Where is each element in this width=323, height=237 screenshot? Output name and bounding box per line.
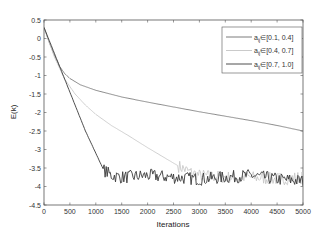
x-tick-label: 500 bbox=[64, 208, 76, 215]
y-tick-label: -4.5 bbox=[29, 202, 41, 209]
x-tick-label: 1500 bbox=[114, 208, 130, 215]
y-tick-label: -1 bbox=[35, 72, 41, 79]
legend: aij∈[0.1, 0.4]aij∈[0.4, 0.7]aij∈[0.7, 1.… bbox=[222, 27, 302, 73]
x-tick-label: 4000 bbox=[243, 208, 259, 215]
y-tick-label: 0.5 bbox=[31, 17, 41, 24]
x-tick-label: 4500 bbox=[269, 208, 285, 215]
y-tick-label: -3.5 bbox=[29, 165, 41, 172]
y-tick-label: -0.5 bbox=[29, 54, 41, 61]
x-tick-label: 5000 bbox=[295, 208, 311, 215]
x-tick-label: 2500 bbox=[166, 208, 182, 215]
x-tick-label: 3000 bbox=[192, 208, 208, 215]
x-tick-label: 0 bbox=[42, 208, 46, 215]
line-chart: 0500100015002000250030003500400045005000… bbox=[0, 0, 323, 237]
x-tick-label: 1000 bbox=[88, 208, 104, 215]
y-axis-label: E(k) bbox=[9, 104, 18, 119]
y-tick-label: -3 bbox=[35, 146, 41, 153]
x-tick-label: 3500 bbox=[218, 208, 234, 215]
y-tick-label: 0 bbox=[37, 35, 41, 42]
y-tick-label: -2 bbox=[35, 109, 41, 116]
x-axis-label: Iterations bbox=[157, 220, 190, 229]
y-tick-label: -1.5 bbox=[29, 91, 41, 98]
y-tick-label: -4 bbox=[35, 183, 41, 190]
y-tick-label: -2.5 bbox=[29, 128, 41, 135]
x-tick-label: 2000 bbox=[140, 208, 156, 215]
